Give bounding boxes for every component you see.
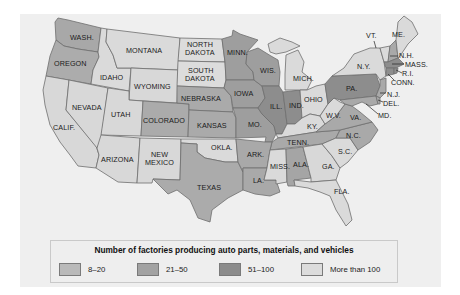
- label-ky: KY.: [307, 122, 318, 131]
- label-nebraska: NEBRASKA: [181, 94, 221, 103]
- label-minn: MINN.: [227, 48, 248, 57]
- label-south-dakota-2: DAKOTA: [185, 74, 215, 83]
- label-iowa: IOWA: [234, 89, 253, 98]
- label-new-mexico-2: MEXICO: [145, 158, 174, 167]
- label-pa: PA.: [346, 84, 357, 93]
- legend-label: 21–50: [166, 265, 188, 274]
- label-ala: ALA.: [293, 160, 309, 169]
- label-wash: WASH.: [70, 33, 94, 42]
- legend-swatch: [219, 263, 241, 276]
- label-oregon: OREGON: [54, 59, 87, 68]
- label-ohio: OHIO: [304, 95, 323, 104]
- state-michigan[interactable]: [285, 50, 312, 90]
- label-md: MD.: [378, 111, 391, 120]
- legend-swatch: [301, 263, 323, 276]
- label-me: ME.: [392, 30, 405, 39]
- label-mich: MICH.: [293, 74, 314, 83]
- label-del: DEL.: [383, 99, 399, 108]
- label-nj: N.J.: [387, 90, 400, 99]
- label-sc: S.C.: [338, 147, 352, 156]
- label-mo: MO.: [248, 120, 262, 129]
- label-idaho: IDAHO: [100, 73, 124, 82]
- label-mass: MASS.: [405, 60, 428, 69]
- label-nevada: NEVADA: [72, 103, 102, 112]
- leader-vt: [374, 41, 376, 48]
- label-wyoming: WYOMING: [134, 82, 171, 91]
- label-nh: N.H.: [399, 51, 414, 60]
- label-nc: N.C.: [346, 131, 361, 140]
- label-conn: CONN.: [391, 78, 415, 87]
- label-ind: IND.: [289, 101, 304, 110]
- label-calif: CALIF.: [53, 123, 75, 132]
- label-montana: MONTANA: [126, 46, 162, 55]
- legend-label: More than 100: [330, 265, 380, 274]
- label-ga: GA.: [322, 162, 335, 171]
- label-fla: FLA.: [334, 187, 350, 196]
- label-texas: TEXAS: [197, 183, 221, 192]
- legend-swatch: [137, 263, 159, 276]
- label-ill: ILL.: [270, 102, 282, 111]
- legend-title: Number of factories producing auto parts…: [51, 245, 397, 255]
- label-colorado: COLORADO: [143, 116, 185, 125]
- label-miss: MISS.: [270, 162, 290, 171]
- label-okla: OKLA.: [211, 143, 233, 152]
- label-vt: VT.: [366, 31, 377, 40]
- legend-item-21-50: 21–50: [137, 262, 188, 276]
- state-connecticut[interactable]: [386, 68, 394, 76]
- legend-label: 8–20: [88, 265, 105, 274]
- label-ny: N.Y.: [357, 62, 370, 71]
- label-la: LA.: [253, 176, 264, 185]
- label-ri: R.I.: [402, 69, 414, 78]
- legend-label: 51–100: [248, 265, 274, 274]
- legend-item-51-100: 51–100: [219, 262, 274, 276]
- legend-swatch: [59, 263, 81, 276]
- legend-item-more-than-100: More than 100: [301, 262, 380, 276]
- label-wv: W.V.: [326, 111, 341, 120]
- label-tenn: TENN.: [287, 138, 309, 147]
- label-arizona: ARIZONA: [101, 155, 134, 164]
- legend-item-8-20: 8–20: [59, 262, 105, 276]
- label-ark: ARK.: [247, 150, 264, 159]
- label-wis: WIS.: [260, 66, 276, 75]
- label-va: VA.: [350, 113, 361, 122]
- label-north-dakota-2: DAKOTA: [185, 48, 215, 57]
- legend: Number of factories producing auto parts…: [50, 240, 398, 283]
- label-kansas: KANSAS: [197, 121, 227, 130]
- label-utah: UTAH: [111, 110, 130, 119]
